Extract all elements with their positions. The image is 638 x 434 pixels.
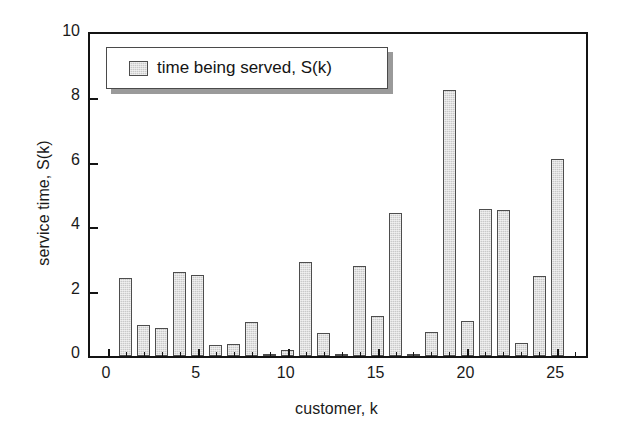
bar bbox=[299, 262, 312, 356]
x-tick-mark-minor bbox=[324, 352, 325, 356]
x-tick-mark-minor bbox=[234, 352, 235, 356]
x-tick-mark-minor bbox=[144, 352, 145, 356]
x-tick-mark-minor bbox=[216, 352, 217, 356]
y-tick-label: 10 bbox=[40, 22, 80, 40]
x-tick-mark bbox=[288, 349, 290, 356]
bar bbox=[479, 209, 492, 356]
bar bbox=[443, 90, 456, 356]
x-tick-mark-minor bbox=[396, 352, 397, 356]
x-tick-label: 0 bbox=[83, 364, 129, 382]
bar bbox=[353, 266, 366, 356]
y-tick-mark bbox=[90, 163, 98, 165]
x-tick-label: 20 bbox=[442, 364, 488, 382]
bar bbox=[191, 275, 204, 356]
x-tick-mark-minor bbox=[162, 352, 163, 356]
chart-figure: service time, S(k) customer, k 0246810 0… bbox=[0, 0, 638, 434]
y-tick-label: 6 bbox=[40, 151, 80, 169]
x-tick-label: 5 bbox=[173, 364, 219, 382]
y-tick-label: 2 bbox=[40, 280, 80, 298]
x-tick-label: 15 bbox=[353, 364, 399, 382]
x-tick-mark-minor bbox=[485, 352, 486, 356]
x-tick-mark-minor bbox=[306, 352, 307, 356]
y-tick-mark bbox=[90, 227, 98, 229]
x-tick-label: 25 bbox=[532, 364, 578, 382]
x-tick-mark-minor bbox=[180, 352, 181, 356]
bar bbox=[389, 213, 402, 356]
x-tick-mark-minor bbox=[575, 352, 576, 356]
x-tick-mark-minor bbox=[126, 352, 127, 356]
x-tick-mark-minor bbox=[503, 352, 504, 356]
bar bbox=[245, 322, 258, 356]
x-tick-mark-minor bbox=[431, 352, 432, 356]
bar bbox=[551, 159, 564, 356]
x-tick-mark-minor bbox=[539, 352, 540, 356]
y-tick-mark bbox=[90, 292, 98, 294]
x-tick-mark-minor bbox=[413, 352, 414, 356]
bar bbox=[497, 210, 510, 356]
x-axis-title: customer, k bbox=[109, 400, 564, 418]
x-tick-mark bbox=[198, 349, 200, 356]
x-tick-mark-minor bbox=[449, 352, 450, 356]
bar bbox=[119, 278, 132, 356]
legend-swatch-icon bbox=[129, 61, 148, 76]
x-tick-mark-minor bbox=[270, 352, 271, 356]
x-tick-mark bbox=[557, 349, 559, 356]
x-tick-mark bbox=[108, 349, 110, 356]
x-tick-label: 10 bbox=[263, 364, 309, 382]
x-tick-mark bbox=[467, 349, 469, 356]
legend-label: time being served, S(k) bbox=[157, 58, 332, 78]
x-tick-mark bbox=[378, 349, 380, 356]
x-tick-mark-minor bbox=[342, 352, 343, 356]
bar bbox=[533, 276, 546, 356]
bar bbox=[173, 272, 186, 356]
y-tick-mark bbox=[90, 98, 98, 100]
chart-legend: time being served, S(k) bbox=[106, 47, 390, 91]
y-tick-label: 8 bbox=[40, 86, 80, 104]
y-tick-label: 0 bbox=[40, 344, 80, 362]
x-tick-mark-minor bbox=[252, 352, 253, 356]
x-tick-mark-minor bbox=[521, 352, 522, 356]
x-tick-mark-minor bbox=[360, 352, 361, 356]
y-tick-label: 4 bbox=[40, 215, 80, 233]
legend-box: time being served, S(k) bbox=[106, 47, 388, 89]
